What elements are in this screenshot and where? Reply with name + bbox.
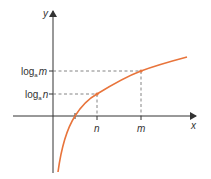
x-tick-n: n (94, 123, 100, 134)
x-axis-label: x (190, 120, 197, 131)
y-tick-log-m: logam (21, 66, 47, 78)
y-tick-log-n: logan (25, 89, 49, 101)
log-graph: y x n m logam logan (0, 0, 211, 179)
y-axis-label: y (42, 8, 49, 19)
x-tick-m: m (137, 123, 145, 134)
log-curve (58, 57, 187, 172)
point-m (139, 69, 142, 72)
point-n (95, 92, 98, 95)
